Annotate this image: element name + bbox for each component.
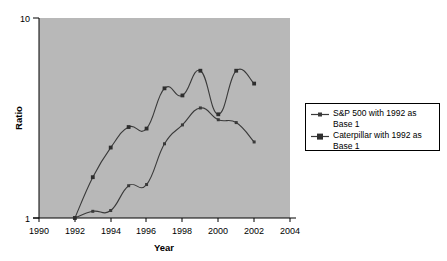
data-point-marker — [198, 69, 202, 73]
x-tick-label-1994: 1994 — [101, 226, 121, 236]
y-tick-label-10: 10 — [20, 14, 30, 24]
plot-area-background — [39, 18, 290, 218]
x-tick-label-2002: 2002 — [244, 226, 264, 236]
legend-entry-sp500: S&P 500 with 1992 as Base 1 — [310, 108, 436, 129]
data-point-marker — [199, 106, 202, 109]
data-point-marker — [109, 209, 112, 212]
chart-container: 10 1 1990 1992 1994 1996 1998 2000 2002 … — [0, 0, 447, 261]
data-point-marker — [217, 118, 220, 121]
data-point-marker — [163, 86, 167, 90]
data-point-marker — [127, 125, 131, 129]
data-point-marker — [127, 184, 130, 187]
data-point-marker — [145, 127, 149, 131]
x-tick-label-1996: 1996 — [136, 226, 156, 236]
data-point-marker — [91, 175, 95, 179]
chart-legend: S&P 500 with 1992 as Base 1 Caterpillar … — [305, 103, 440, 151]
y-tick-label-1: 1 — [25, 214, 30, 224]
data-point-marker — [181, 94, 185, 98]
data-point-marker — [145, 183, 148, 186]
data-point-marker — [234, 69, 238, 73]
data-point-marker — [216, 112, 220, 116]
x-axis-title: Year — [154, 242, 174, 253]
legend-entry-caterpillar: Caterpillar with 1992 as Base 1 — [310, 130, 436, 151]
legend-marker-sp500 — [310, 109, 330, 120]
legend-label-sp500: S&P 500 with 1992 as Base 1 — [333, 108, 436, 129]
data-point-marker — [163, 142, 166, 145]
data-point-marker — [253, 140, 256, 143]
y-axis-title: Ratio — [13, 106, 24, 130]
x-tick-label-2000: 2000 — [208, 226, 228, 236]
data-point-marker — [73, 216, 77, 220]
x-tick-label-1998: 1998 — [172, 226, 192, 236]
data-point-marker — [252, 82, 256, 86]
legend-label-caterpillar: Caterpillar with 1992 as Base 1 — [333, 130, 436, 151]
data-point-marker — [181, 123, 184, 126]
data-point-marker — [235, 121, 238, 124]
data-point-marker — [109, 146, 113, 150]
data-point-marker — [91, 210, 94, 213]
x-tick-label-1990: 1990 — [29, 226, 49, 236]
x-tick-label-2004: 2004 — [280, 226, 300, 236]
legend-marker-caterpillar — [310, 131, 330, 142]
x-tick-label-1992: 1992 — [65, 226, 85, 236]
